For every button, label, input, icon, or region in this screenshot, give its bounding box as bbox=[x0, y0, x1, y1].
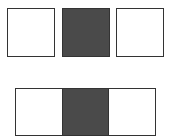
top-box-1 bbox=[7, 8, 55, 57]
bottom-strip bbox=[15, 88, 156, 136]
top-box-2 bbox=[62, 8, 110, 57]
strip-cell-2 bbox=[62, 89, 109, 135]
top-box-3 bbox=[116, 8, 164, 57]
strip-cell-1 bbox=[16, 89, 62, 135]
strip-cell-3 bbox=[108, 89, 155, 135]
